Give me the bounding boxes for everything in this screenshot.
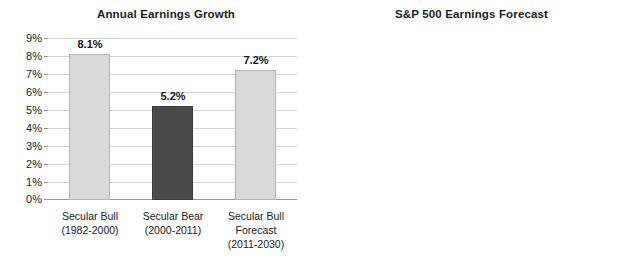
- y-axis-tick-mark: [44, 74, 48, 75]
- x-axis-tick-label-line: (2000-2011): [143, 223, 204, 237]
- chart-title-right: S&P 500 Earnings Forecast: [310, 8, 619, 20]
- y-axis-tick-mark: [44, 38, 48, 39]
- y-axis-tick-label: 6%: [26, 86, 42, 98]
- y-axis-tick-mark: [44, 110, 48, 111]
- y-axis-tick-label: 9%: [26, 32, 42, 44]
- x-axis-tick-label-line: Secular Bull: [62, 210, 118, 222]
- chart-panel-sp500-earnings-forecast: S&P 500 Earnings Forecast $400$350$300$2…: [310, 0, 619, 263]
- y-axis-tick-label: 0%: [26, 193, 42, 205]
- x-axis-tick-label-line: Forecast: [228, 223, 284, 237]
- x-axis-tick-label: Secular Bull(1982-2000): [61, 209, 118, 237]
- y-axis-tick-mark: [44, 146, 48, 147]
- bar-value-label: 5.2%: [160, 90, 185, 102]
- y-axis-tick-label: 5%: [26, 104, 42, 116]
- y-axis-tick-label: 1%: [26, 176, 42, 188]
- bar: [69, 54, 110, 200]
- bar-value-label: 7.2%: [243, 54, 268, 66]
- y-axis-tick-mark: [44, 182, 48, 183]
- y-axis-tick-mark: [44, 199, 48, 200]
- chart-title-left: Annual Earnings Growth: [0, 8, 310, 20]
- x-axis-tick-label: Secular BullForecast(2011-2030): [228, 209, 284, 251]
- y-axis-tick-mark: [44, 164, 48, 165]
- bar: [235, 70, 276, 200]
- y-axis-tick-mark: [44, 128, 48, 129]
- x-axis-tick-label-line: Secular Bear: [143, 210, 204, 222]
- x-axis-tick-label-line: (1982-2000): [61, 223, 118, 237]
- y-axis-tick-label: 3%: [26, 140, 42, 152]
- x-axis-tick-label-line: (2011-2030): [228, 237, 284, 251]
- y-axis-tick-label: 4%: [26, 122, 42, 134]
- x-axis-tick-label-line: Secular Bull: [228, 210, 284, 222]
- y-axis-tick-label: 7%: [26, 68, 42, 80]
- bar-value-label: 8.1%: [77, 38, 102, 50]
- y-axis-tick-label: 2%: [26, 158, 42, 170]
- bar: [152, 106, 193, 200]
- dual-bar-chart-figure: Annual Earnings Growth 9%8%7%6%5%4%3%2%1…: [0, 0, 619, 263]
- y-axis-tick-mark: [44, 56, 48, 57]
- plot-area-left: 9%8%7%6%5%4%3%2%1%0%8.1%Secular Bull(198…: [48, 38, 297, 200]
- x-axis-tick-label: Secular Bear(2000-2011): [143, 209, 204, 237]
- y-axis-tick-mark: [44, 92, 48, 93]
- y-axis-tick-label: 8%: [26, 50, 42, 62]
- chart-panel-annual-earnings-growth: Annual Earnings Growth 9%8%7%6%5%4%3%2%1…: [0, 0, 310, 263]
